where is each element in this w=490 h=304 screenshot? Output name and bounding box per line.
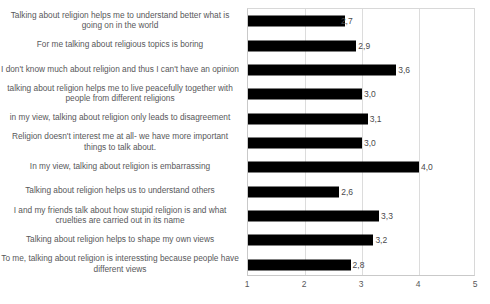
category-label-row: talking about religion helps me to live … (0, 81, 243, 105)
category-label-row: I don't know much about religion and thu… (0, 57, 243, 81)
bar-row: 2,8 (248, 253, 474, 277)
bar[interactable] (248, 186, 339, 197)
category-label: I and my friends talk about how stupid r… (0, 205, 243, 226)
bar[interactable] (248, 235, 373, 246)
x-tick-4: 4 (416, 279, 421, 289)
category-axis-labels: Talking about religion helps me to under… (0, 8, 243, 276)
bar-chart: 2,72,93,63,03,13,04,02,63,33,22,8 Talkin… (0, 0, 490, 304)
x-tick-3: 3 (359, 279, 364, 289)
bar[interactable] (248, 40, 356, 51)
category-label-row: Talking about religion helps us to under… (0, 179, 243, 203)
bar-row: 3,2 (248, 228, 474, 252)
x-axis-tick-labels: 12345 (0, 279, 490, 295)
category-label: To me, talking about religion is interes… (0, 253, 243, 274)
bar-value-label: 3,6 (396, 65, 410, 74)
x-tick-2: 2 (302, 279, 307, 289)
category-label-row: To me, talking about religion is interes… (0, 252, 243, 276)
plot-area: 2,72,93,63,03,13,04,02,63,33,22,8 (247, 8, 475, 276)
bar-row: 2,6 (248, 180, 474, 204)
bar[interactable] (248, 64, 396, 75)
category-label-row: in my view, talking about religion only … (0, 105, 243, 129)
category-label-row: In my view, talking about religion is em… (0, 154, 243, 178)
category-label-row: I and my friends talk about how stupid r… (0, 203, 243, 227)
bar-row: 3,0 (248, 131, 474, 155)
bar-row: 3,0 (248, 82, 474, 106)
bar[interactable] (248, 113, 368, 124)
bar-value-label: 2,8 (351, 260, 365, 269)
bar[interactable] (248, 211, 379, 222)
category-label-row: Religion doesn't interest me at all- we … (0, 130, 243, 154)
category-label: Talking about religion helps to shape my… (0, 234, 243, 245)
bar-row: 2,9 (248, 33, 474, 57)
category-label-row: Talking about religion helps to shape my… (0, 227, 243, 251)
bar-value-label: 3,0 (362, 90, 376, 99)
category-label-row: For me talking about religious topics is… (0, 32, 243, 56)
bar-row: 3,6 (248, 58, 474, 82)
category-label: I don't know much about religion and thu… (0, 64, 243, 75)
category-label: For me talking about religious topics is… (0, 39, 243, 50)
bar[interactable] (248, 16, 345, 27)
bar[interactable] (248, 137, 362, 148)
category-label: in my view, talking about religion only … (0, 112, 243, 123)
bar-value-label: 2,9 (356, 41, 370, 50)
bar[interactable] (248, 162, 419, 173)
bar-value-label: 2,6 (339, 187, 353, 196)
x-tick-1: 1 (245, 279, 250, 289)
bar[interactable] (248, 259, 351, 270)
bar-value-label: 2,7 (339, 17, 353, 26)
bar[interactable] (248, 89, 362, 100)
category-label-row: Talking about religion helps me to under… (0, 8, 243, 32)
bar-value-label: 3,2 (373, 236, 387, 245)
bar-value-label: 3,3 (379, 212, 393, 221)
bar-row: 3,1 (248, 106, 474, 130)
bar-row: 3,3 (248, 204, 474, 228)
category-label: Talking about religion helps us to under… (0, 185, 243, 196)
bar-row: 4,0 (248, 155, 474, 179)
bar-value-label: 3,1 (368, 114, 382, 123)
bar-row: 2,7 (248, 9, 474, 33)
bar-value-label: 3,0 (362, 138, 376, 147)
category-label: talking about religion helps me to live … (0, 83, 243, 104)
x-tick-5: 5 (473, 279, 478, 289)
bar-value-label: 4,0 (419, 163, 433, 172)
category-label: In my view, talking about religion is em… (0, 161, 243, 172)
category-label: Religion doesn't interest me at all- we … (0, 131, 243, 152)
category-label: Talking about religion helps me to under… (0, 10, 243, 31)
